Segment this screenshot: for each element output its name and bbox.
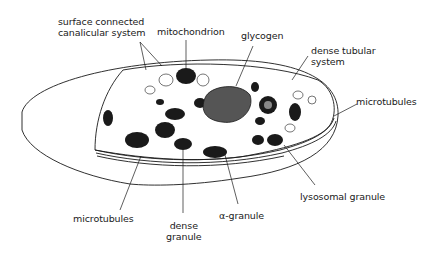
label-line: system	[311, 56, 376, 67]
label-lysosomal-granule: lysosomal granule	[300, 191, 385, 202]
label-line: dense	[166, 220, 202, 231]
label-line: canalicular system	[58, 27, 145, 38]
label-line: surface connected	[58, 16, 145, 27]
label-line: granule	[166, 231, 202, 242]
label-dense-granule: dense granule	[166, 220, 202, 242]
label-microtubules-left: microtubules	[73, 213, 134, 224]
platelet-illustration	[0, 0, 423, 257]
label-surface-connected: surface connected canalicular system	[58, 16, 145, 38]
label-mitochondrion: mitochondrion	[157, 26, 225, 37]
label-glycogen: glycogen	[241, 30, 283, 41]
label-microtubules-right: microtubules	[356, 96, 417, 107]
platelet-diagram: surface connected canalicular system mit…	[0, 0, 423, 257]
label-dense-tubular-system: dense tubular system	[311, 45, 376, 67]
label-alpha-granule: α-granule	[219, 210, 264, 221]
label-line: dense tubular	[311, 45, 376, 56]
